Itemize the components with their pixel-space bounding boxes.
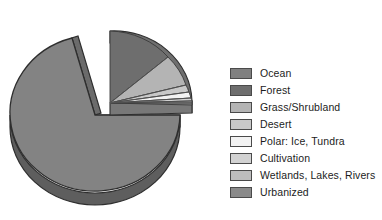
legend-item-polar-ice-tundra[interactable]: Polar: Ice, Tundra [230, 134, 375, 148]
legend-swatch-wetlands-lakes-rivers [230, 170, 252, 181]
legend-swatch-forest [230, 85, 252, 96]
legend-item-desert[interactable]: Desert [230, 117, 375, 131]
legend-swatch-cultivation [230, 153, 252, 164]
legend-label-grass-shrubland: Grass/Shrubland [260, 102, 340, 113]
legend-label-ocean: Ocean [260, 68, 291, 79]
legend-swatch-polar-ice-tundra [230, 136, 252, 147]
legend-swatch-ocean [230, 68, 252, 79]
legend-swatch-grass-shrubland [230, 102, 252, 113]
legend-swatch-desert [230, 119, 252, 130]
chart-legend: Ocean Forest Grass/Shrubland Desert Pola… [230, 66, 375, 199]
pie-chart-graphic [0, 0, 240, 220]
legend-label-wetlands-lakes-rivers: Wetlands, Lakes, Rivers [260, 170, 375, 181]
legend-item-forest[interactable]: Forest [230, 83, 375, 97]
legend-label-desert: Desert [260, 119, 292, 130]
legend-label-polar-ice-tundra: Polar: Ice, Tundra [260, 136, 345, 147]
legend-item-wetlands-lakes-rivers[interactable]: Wetlands, Lakes, Rivers [230, 168, 375, 182]
legend-item-ocean[interactable]: Ocean [230, 66, 375, 80]
legend-item-grass-shrubland[interactable]: Grass/Shrubland [230, 100, 375, 114]
legend-label-forest: Forest [260, 85, 290, 96]
pie-chart-figure: Ocean Forest Grass/Shrubland Desert Pola… [0, 0, 382, 220]
legend-swatch-urbanized [230, 187, 252, 198]
legend-item-cultivation[interactable]: Cultivation [230, 151, 375, 165]
legend-item-urbanized[interactable]: Urbanized [230, 185, 375, 199]
land-slice-group [110, 31, 192, 115]
legend-label-cultivation: Cultivation [260, 153, 310, 164]
legend-label-urbanized: Urbanized [260, 187, 309, 198]
